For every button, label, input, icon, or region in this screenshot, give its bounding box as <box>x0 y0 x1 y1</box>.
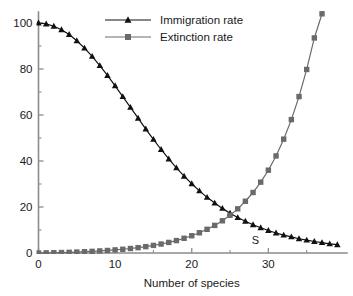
extinction-marker <box>66 250 71 255</box>
extinction-marker <box>135 245 140 250</box>
x-tick-label: 10 <box>109 258 122 270</box>
chart-figure: 0204060801000102030Number of speciesSImm… <box>0 0 353 296</box>
legend-label: Extinction rate <box>160 31 233 43</box>
y-tick-label: 60 <box>20 109 33 121</box>
extinction-marker <box>166 240 171 245</box>
extinction-marker <box>258 179 263 184</box>
y-tick-label: 80 <box>20 63 33 75</box>
immigration-marker <box>234 214 240 220</box>
extinction-marker <box>74 249 79 254</box>
y-tick-label: 0 <box>26 247 32 259</box>
immigration-line <box>39 23 338 245</box>
extinction-marker <box>312 35 317 40</box>
y-tick-label: 40 <box>20 155 33 167</box>
extinction-marker <box>174 238 179 243</box>
annotations-group: S <box>252 234 259 246</box>
axes-group: 0204060801000102030Number of species <box>13 12 347 289</box>
extinction-marker <box>97 248 102 253</box>
extinction-marker <box>128 246 133 251</box>
x-tick-label: 0 <box>35 258 41 270</box>
extinction-marker <box>266 168 271 173</box>
extinction-marker <box>89 249 94 254</box>
chart-legend: Immigration rateExtinction rate <box>105 14 243 43</box>
extinction-marker <box>204 227 209 232</box>
extinction-marker <box>36 250 41 255</box>
extinction-marker <box>304 67 309 72</box>
extinction-marker <box>273 153 278 158</box>
legend-item[interactable]: Immigration rate <box>105 14 243 26</box>
extinction-marker <box>197 230 202 235</box>
extinction-marker <box>189 233 194 238</box>
x-axis-title: Number of species <box>144 277 240 289</box>
y-tick-label: 20 <box>20 201 33 213</box>
extinction-marker <box>120 247 125 252</box>
immigration-marker <box>219 205 225 211</box>
extinction-marker <box>43 250 48 255</box>
extinction-marker <box>289 117 294 122</box>
extinction-marker <box>235 206 240 211</box>
extinction-marker <box>319 11 324 16</box>
chart-svg: 0204060801000102030Number of speciesSImm… <box>0 0 353 296</box>
extinction-marker <box>296 94 301 99</box>
equilibrium-label: S <box>252 234 259 246</box>
extinction-marker <box>82 249 87 254</box>
legend-item[interactable]: Extinction rate <box>105 31 233 43</box>
extinction-marker <box>181 236 186 241</box>
extinction-marker <box>243 199 248 204</box>
extinction-marker <box>143 244 148 249</box>
extinction-marker <box>281 136 286 141</box>
extinction-marker <box>227 213 232 218</box>
extinction-marker <box>220 218 225 223</box>
immigration-marker <box>66 31 72 37</box>
extinction-marker <box>59 250 64 255</box>
x-tick-label: 30 <box>262 258 275 270</box>
extinction-marker <box>105 248 110 253</box>
extinction-marker <box>112 247 117 252</box>
y-tick-label: 100 <box>13 17 32 29</box>
legend-label: Immigration rate <box>160 14 243 26</box>
extinction-marker <box>51 250 56 255</box>
extinction-marker <box>250 190 255 195</box>
series-immigration-rate <box>35 20 340 248</box>
extinction-marker <box>151 243 156 248</box>
x-tick-label: 20 <box>185 258 198 270</box>
extinction-marker <box>158 241 163 246</box>
immigration-marker <box>211 200 217 206</box>
extinction-marker <box>212 223 217 228</box>
legend-square-icon <box>125 34 131 40</box>
